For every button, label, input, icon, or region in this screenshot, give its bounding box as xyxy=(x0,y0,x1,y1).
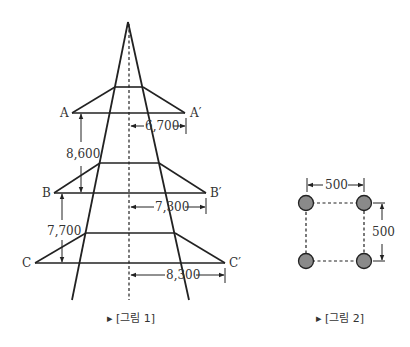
tower-right-leg xyxy=(128,22,189,300)
dimension-b-half-span: 7,300 xyxy=(131,198,206,214)
svg-text:500: 500 xyxy=(325,178,348,192)
conductor-bundle-figure: 500 500 ▸ [그림 2] xyxy=(299,178,395,325)
bundle-spacing-square xyxy=(306,203,364,261)
dimension-bundle-height: 500 xyxy=(372,203,395,261)
conductor-bottom-right xyxy=(357,254,372,269)
dimension-b-to-c: 7,700 xyxy=(47,194,81,262)
tower-left-leg xyxy=(72,22,128,300)
dimension-c-half-span: 8,300 xyxy=(131,268,225,283)
diagram-canvas: A A′ B B′ C C′ 6,700 7,300 8,300 xyxy=(0,0,410,347)
label-a-prime: A′ xyxy=(189,106,202,120)
conductor-bottom-left xyxy=(299,254,314,269)
svg-text:8,300: 8,300 xyxy=(166,268,200,282)
figure2-caption: ▸ [그림 2] xyxy=(316,312,364,325)
crossarm-b xyxy=(54,163,206,193)
label-c-prime: C′ xyxy=(229,256,241,270)
tower-figure: A A′ B B′ C C′ 6,700 7,300 8,300 xyxy=(22,22,241,325)
label-c: C xyxy=(22,256,31,270)
label-a: A xyxy=(59,106,69,120)
svg-text:7,300: 7,300 xyxy=(155,200,189,214)
svg-text:500: 500 xyxy=(372,225,395,239)
figure1-caption: ▸ [그림 1] xyxy=(107,312,155,325)
svg-text:8,600: 8,600 xyxy=(66,147,100,161)
label-b-prime: B′ xyxy=(210,186,222,200)
conductor-top-right xyxy=(357,196,372,211)
dimension-a-half-span: 6,700 xyxy=(131,118,186,134)
svg-text:7,700: 7,700 xyxy=(47,224,81,238)
dimension-bundle-width: 500 xyxy=(307,178,364,192)
conductor-top-left xyxy=(299,196,314,211)
label-b: B xyxy=(42,186,51,200)
svg-text:6,700: 6,700 xyxy=(145,119,179,133)
